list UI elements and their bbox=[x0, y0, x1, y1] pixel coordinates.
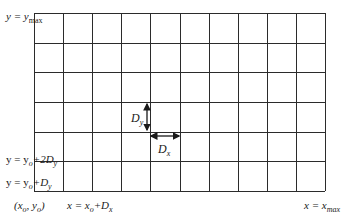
label-y-max: y = ymax bbox=[6, 11, 42, 25]
grid-diagram: y = ymax y = yo+2Dy y = yo+Dy (xo, yo) x… bbox=[0, 0, 349, 219]
label-x-plus-dx: x = xo+Dx bbox=[67, 200, 113, 214]
grid-lines bbox=[0, 0, 349, 219]
label-y-plus-2dy: y = yo+2Dy bbox=[6, 154, 57, 168]
label-origin: (xo, yo) bbox=[14, 200, 45, 214]
label-y-plus-dy: y = yo+Dy bbox=[6, 177, 52, 191]
label-x-max: x = xmax bbox=[304, 200, 340, 214]
label-dx: Dx bbox=[158, 143, 170, 158]
label-dy: Dy bbox=[131, 112, 143, 127]
